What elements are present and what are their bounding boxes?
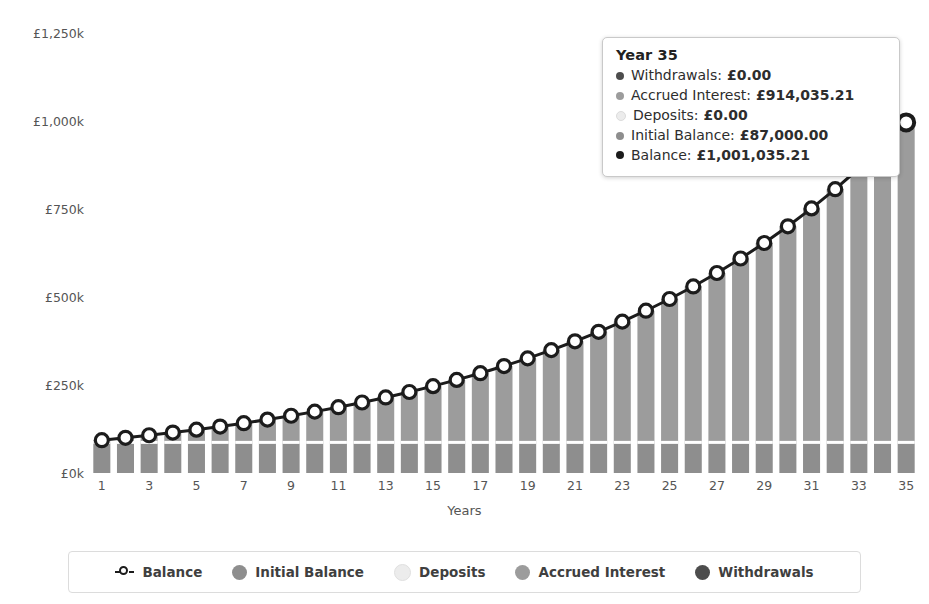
bar-segment-initial-balance[interactable]: [590, 442, 607, 473]
bar-segment-initial-balance[interactable]: [235, 442, 252, 473]
bar-segment-initial-balance[interactable]: [495, 442, 512, 473]
balance-data-point[interactable]: [498, 360, 511, 373]
balance-data-point[interactable]: [427, 380, 440, 393]
balance-data-point[interactable]: [214, 420, 227, 433]
bar-segment-initial-balance[interactable]: [779, 442, 796, 473]
bar-segment-initial-balance[interactable]: [259, 442, 276, 473]
bar-segment-initial-balance[interactable]: [898, 442, 915, 473]
bar-segment-accrued-interest[interactable]: [803, 208, 820, 442]
bar-segment-initial-balance[interactable]: [661, 442, 678, 473]
bar-segment-initial-balance[interactable]: [354, 442, 371, 473]
bar-segment-accrued-interest[interactable]: [685, 286, 702, 442]
bar-segment-accrued-interest[interactable]: [637, 311, 654, 443]
legend-item-label: Balance: [142, 564, 202, 580]
balance-data-point[interactable]: [758, 236, 771, 249]
bar-segment-initial-balance[interactable]: [283, 442, 300, 473]
bar-segment-initial-balance[interactable]: [164, 442, 181, 473]
balance-data-point[interactable]: [450, 373, 463, 386]
balance-data-point[interactable]: [687, 280, 700, 293]
chart-legend[interactable]: BalanceInitial BalanceDepositsAccrued In…: [68, 551, 861, 593]
balance-data-point[interactable]: [95, 434, 108, 447]
bar-stack-separator: [425, 441, 442, 444]
balance-data-point[interactable]: [285, 409, 298, 422]
bar-segment-initial-balance[interactable]: [519, 442, 536, 473]
bar-segment-accrued-interest[interactable]: [448, 380, 465, 442]
balance-data-point[interactable]: [474, 367, 487, 380]
bar-segment-initial-balance[interactable]: [566, 442, 583, 473]
bar-segment-initial-balance[interactable]: [850, 442, 867, 473]
bar-segment-initial-balance[interactable]: [685, 442, 702, 473]
balance-data-point[interactable]: [781, 220, 794, 233]
balance-data-point[interactable]: [734, 252, 747, 265]
bar-segment-initial-balance[interactable]: [472, 442, 489, 473]
bar-segment-initial-balance[interactable]: [756, 442, 773, 473]
bar-segment-initial-balance[interactable]: [803, 442, 820, 473]
legend-item-deposits[interactable]: Deposits: [394, 564, 485, 581]
legend-item-accrued-interest[interactable]: Accrued Interest: [515, 564, 665, 580]
bar-segment-initial-balance[interactable]: [448, 442, 465, 473]
bar-segment-accrued-interest[interactable]: [898, 122, 915, 442]
bar-segment-accrued-interest[interactable]: [472, 373, 489, 442]
bar-segment-initial-balance[interactable]: [306, 442, 323, 473]
balance-data-point[interactable]: [710, 266, 723, 279]
balance-data-point[interactable]: [237, 417, 250, 430]
bar-segment-initial-balance[interactable]: [708, 442, 725, 473]
bar-segment-initial-balance[interactable]: [874, 442, 891, 473]
bar-segment-accrued-interest[interactable]: [850, 169, 867, 443]
balance-data-point[interactable]: [592, 325, 605, 338]
balance-data-point[interactable]: [190, 423, 203, 436]
balance-data-point[interactable]: [379, 391, 392, 404]
bar-segment-accrued-interest[interactable]: [614, 322, 631, 443]
bar-segment-initial-balance[interactable]: [401, 442, 418, 473]
bar-segment-initial-balance[interactable]: [614, 442, 631, 473]
bar-segment-accrued-interest[interactable]: [495, 366, 512, 442]
bar-segment-accrued-interest[interactable]: [732, 259, 749, 443]
bar-segment-accrued-interest[interactable]: [756, 243, 773, 442]
balance-data-point[interactable]: [403, 385, 416, 398]
balance-data-point[interactable]: [356, 396, 369, 409]
balance-data-point[interactable]: [639, 304, 652, 317]
balance-data-point[interactable]: [829, 183, 842, 196]
bar-segment-accrued-interest[interactable]: [708, 273, 725, 442]
bar-segment-initial-balance[interactable]: [425, 442, 442, 473]
balance-data-point[interactable]: [261, 413, 274, 426]
balance-data-point[interactable]: [545, 344, 558, 357]
balance-data-point[interactable]: [143, 429, 156, 442]
legend-item-balance[interactable]: Balance: [115, 564, 202, 580]
y-axis-tick-label: £750k: [2, 202, 84, 217]
balance-data-point[interactable]: [805, 202, 818, 215]
balance-data-point[interactable]: [663, 293, 676, 306]
bar-segment-initial-balance[interactable]: [212, 442, 229, 473]
balance-data-point[interactable]: [166, 426, 179, 439]
balance-data-point[interactable]: [308, 405, 321, 418]
bar-segment-initial-balance[interactable]: [732, 442, 749, 473]
balance-data-point[interactable]: [119, 431, 132, 444]
bar-segment-accrued-interest[interactable]: [543, 350, 560, 442]
bar-stack-separator: [306, 441, 323, 444]
bar-segment-initial-balance[interactable]: [330, 442, 347, 473]
bar-stack-separator: [188, 441, 205, 444]
bar-segment-accrued-interest[interactable]: [566, 341, 583, 442]
bar-segment-accrued-interest[interactable]: [661, 299, 678, 442]
balance-data-point[interactable]: [616, 315, 629, 328]
balance-data-point[interactable]: [332, 401, 345, 414]
legend-item-withdrawals[interactable]: Withdrawals: [695, 564, 813, 580]
bar-segment-initial-balance[interactable]: [377, 442, 394, 473]
bar-segment-initial-balance[interactable]: [188, 442, 205, 473]
bar-segment-initial-balance[interactable]: [141, 442, 158, 473]
bar-segment-initial-balance[interactable]: [543, 442, 560, 473]
bar-segment-initial-balance[interactable]: [117, 442, 134, 473]
bar-segment-accrued-interest[interactable]: [779, 226, 796, 442]
legend-item-initial-balance[interactable]: Initial Balance: [232, 564, 364, 580]
bar-segment-accrued-interest[interactable]: [425, 386, 442, 442]
balance-data-point[interactable]: [521, 352, 534, 365]
bar-segment-accrued-interest[interactable]: [827, 189, 844, 442]
balance-data-point[interactable]: [568, 335, 581, 348]
bar-segment-accrued-interest[interactable]: [590, 332, 607, 443]
balance-data-point[interactable]: [898, 114, 914, 130]
bar-segment-accrued-interest[interactable]: [874, 146, 891, 442]
bar-segment-initial-balance[interactable]: [637, 442, 654, 473]
bar-segment-accrued-interest[interactable]: [519, 358, 536, 442]
bar-segment-initial-balance[interactable]: [827, 442, 844, 473]
bar-stack-separator: [401, 441, 418, 444]
